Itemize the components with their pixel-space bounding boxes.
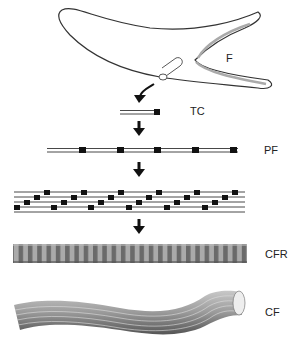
fibroblast-cell xyxy=(59,9,272,103)
protofibril xyxy=(47,147,238,153)
down-arrow-icon xyxy=(133,162,145,177)
down-arrow-icon xyxy=(133,121,145,136)
collagen-fiber xyxy=(14,291,245,335)
label-collagen-fiber: CF xyxy=(265,306,280,318)
curved-arrow-icon xyxy=(140,84,154,96)
collagen-fibril xyxy=(13,244,247,263)
label-protofibril: PF xyxy=(264,144,278,156)
arrowhead-icon xyxy=(134,95,146,103)
down-arrow-icon xyxy=(133,219,145,234)
label-fibroblast: F xyxy=(226,52,233,64)
collagen-assembly-diagram xyxy=(0,0,291,340)
label-tropocollagen: TC xyxy=(190,105,205,117)
label-collagen-fibril: CFR xyxy=(265,248,288,260)
fiber-cross-section xyxy=(233,291,245,315)
tropocollagen-molecule xyxy=(120,109,160,115)
